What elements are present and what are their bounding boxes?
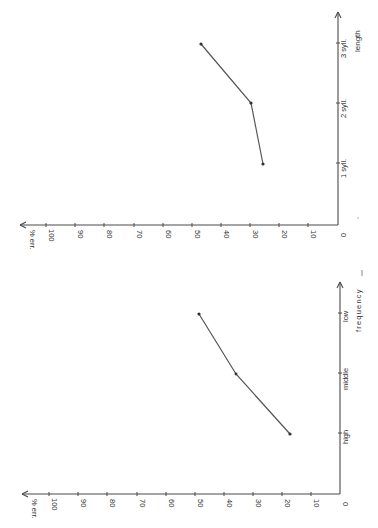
x-tick-label: high — [341, 430, 350, 444]
scan-marks — [357, 217, 362, 276]
chart-length: 0 10 20 30 40 50 60 70 80 90 100 % err. … — [20, 12, 362, 250]
x-tick-label: 2 syll. — [339, 99, 348, 118]
x-axis-title: frequency — [354, 288, 363, 332]
y-tick-label: 0 — [339, 233, 348, 237]
y-tick-label: 20 — [283, 499, 292, 507]
series-line — [199, 314, 290, 434]
x-tick-label: 1 syll. — [339, 159, 348, 178]
data-point — [199, 42, 202, 45]
y-tick-label: 0 — [341, 502, 350, 506]
y-tick-label: 40 — [225, 499, 234, 507]
y-tick-label: 60 — [164, 230, 173, 238]
y-axis-title: % err. — [28, 230, 37, 250]
y-tick-label: 80 — [108, 499, 117, 507]
x-tick-label: middle — [341, 368, 350, 390]
series-line — [201, 44, 263, 164]
y-tick-labels: 0 10 20 30 40 50 60 70 80 90 100 — [47, 229, 348, 242]
data-point — [249, 101, 252, 104]
x-tick-label: 3 syll. — [339, 39, 348, 58]
y-tick-label: 50 — [196, 499, 205, 507]
y-tick-label: 100 — [47, 229, 56, 242]
data-point — [261, 162, 264, 165]
chart-frequency: 0 10 20 30 40 50 60 70 80 90 100 % err. … — [22, 282, 363, 519]
y-tick-label: 100 — [50, 498, 59, 511]
y-tick-label: 70 — [138, 499, 147, 507]
y-tick-label: 20 — [280, 230, 289, 238]
y-tick-label: 80 — [105, 230, 114, 238]
y-tick-label: 50 — [193, 230, 202, 238]
y-tick-label: 10 — [312, 499, 321, 507]
figure-canvas: 0 10 20 30 40 50 60 70 80 90 100 % err. … — [0, 0, 378, 528]
x-tick-label: low — [341, 310, 350, 322]
y-tick-label: 10 — [309, 230, 318, 238]
y-tick-label: 30 — [254, 499, 263, 507]
y-tick-label: 70 — [135, 230, 144, 238]
y-tick-label: 90 — [79, 499, 88, 507]
y-tick-label: 40 — [222, 230, 231, 238]
data-point — [197, 312, 200, 315]
y-tick-label: 90 — [76, 230, 85, 238]
y-tick-labels: 0 10 20 30 40 50 60 70 80 90 100 — [50, 498, 350, 511]
data-point — [288, 432, 291, 435]
y-tick-label: 30 — [251, 230, 260, 238]
x-axis-title: length — [353, 30, 362, 52]
y-tick-label: 60 — [167, 499, 176, 507]
y-axis-title: % err. — [30, 499, 39, 519]
data-point — [235, 373, 238, 376]
